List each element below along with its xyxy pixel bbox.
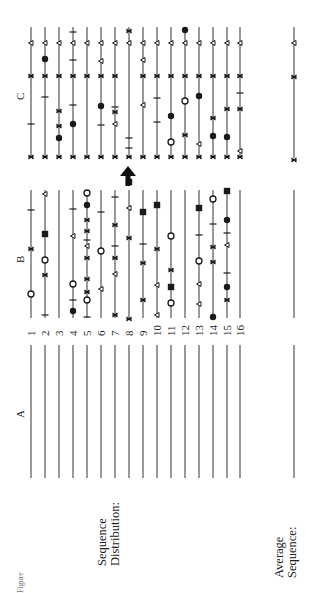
filled-square-marker: [140, 209, 146, 215]
row-label-11: 11: [165, 325, 178, 336]
open-triangle-marker: [197, 282, 202, 287]
open-triangle-marker: [197, 302, 202, 307]
filled-square-marker: [224, 188, 230, 194]
average-sequence-line-2: Sequence:: [286, 527, 299, 578]
open-triangle-marker: [29, 41, 34, 46]
filled-circle-marker: [210, 314, 216, 320]
open-triangle-marker: [99, 59, 104, 64]
open-triangle-marker: [57, 41, 62, 46]
filled-circle-marker: [42, 56, 48, 62]
filled-square-marker: [154, 202, 160, 208]
open-circle-marker: [84, 190, 90, 196]
sequence-distribution-label: Sequence Distribution:: [96, 502, 121, 566]
sequence-distribution-line-1: Sequence: [96, 502, 109, 566]
row-label-9: 9: [137, 331, 150, 337]
open-circle-marker: [210, 196, 216, 202]
filled-square-marker: [42, 231, 48, 237]
sequence-lines: [31, 27, 294, 478]
filled-circle-marker: [224, 284, 230, 290]
row-label-12: 12: [179, 325, 192, 336]
open-triangle-marker: [113, 272, 118, 277]
row-label-14: 14: [207, 325, 220, 336]
open-triangle-marker: [127, 206, 132, 211]
open-triangle-marker: [71, 234, 76, 239]
filled-circle-marker: [56, 135, 62, 141]
filled-circle-marker: [70, 308, 76, 314]
open-circle-marker: [182, 98, 188, 104]
open-triangle-marker: [197, 142, 202, 147]
filled-square-marker: [196, 205, 202, 211]
open-triangle-marker: [43, 41, 48, 46]
open-triangle-marker: [141, 41, 146, 46]
row-label-5: 5: [81, 331, 94, 337]
open-triangle-marker: [85, 41, 90, 46]
open-circle-marker: [70, 281, 76, 287]
sequence-distribution-line-2: Distribution:: [109, 502, 122, 566]
open-triangle-marker: [85, 244, 90, 249]
filled-circle-marker: [70, 121, 76, 127]
open-triangle-marker: [141, 58, 146, 63]
row-label-15: 15: [221, 325, 234, 336]
open-triangle-marker: [113, 122, 118, 127]
open-circle-marker: [84, 297, 90, 303]
row-label-7: 7: [109, 331, 122, 337]
open-triangle-marker: [43, 192, 48, 197]
row-label-2: 2: [39, 331, 52, 337]
row-label-6: 6: [95, 331, 108, 337]
open-triangle-marker: [99, 287, 104, 292]
row-label-16: 16: [234, 325, 247, 336]
filled-circle-marker: [182, 27, 188, 33]
panel-label-c: C: [14, 93, 27, 100]
open-triangle-marker: [113, 41, 118, 46]
open-triangle-marker: [292, 41, 297, 46]
row-label-8: 8: [123, 331, 136, 337]
open-triangle-marker: [155, 283, 160, 288]
open-circle-marker: [98, 248, 104, 254]
open-triangle-marker: [225, 41, 230, 46]
open-triangle-marker: [183, 41, 188, 46]
filled-circle-marker: [168, 113, 174, 119]
filled-circle-marker: [224, 217, 230, 223]
panel-label-b: B: [14, 256, 27, 263]
row-label-13: 13: [193, 325, 206, 336]
panel-label-a: A: [14, 410, 27, 418]
sequence-markers: [28, 27, 298, 321]
filled-circle-marker: [210, 133, 216, 139]
open-triangle-marker: [71, 41, 76, 46]
open-circle-marker: [28, 291, 34, 297]
open-triangle-marker: [155, 41, 160, 46]
open-circle-marker: [168, 233, 174, 239]
average-sequence-line-1: Average: [273, 527, 286, 578]
open-triangle-marker: [197, 41, 202, 46]
open-circle-marker: [42, 257, 48, 263]
open-triangle-marker: [169, 41, 174, 46]
open-triangle-marker: [141, 103, 146, 108]
filled-circle-marker: [196, 93, 202, 99]
row-label-10: 10: [151, 325, 164, 336]
open-triangle-marker: [99, 41, 104, 46]
open-circle-marker: [196, 258, 202, 264]
filled-circle-marker: [84, 202, 90, 208]
open-triangle-marker: [238, 149, 243, 154]
open-circle-marker: [168, 139, 174, 145]
sequence-distribution-figure: [0, 0, 319, 593]
open-triangle-marker: [155, 313, 160, 318]
row-label-4: 4: [67, 331, 80, 337]
open-triangle-marker: [225, 243, 230, 248]
open-triangle-marker: [238, 41, 243, 46]
arrow-up-icon: [120, 166, 136, 186]
open-triangle-marker: [127, 41, 132, 46]
figure-caption: Figure: [14, 572, 27, 593]
open-circle-marker: [168, 300, 174, 306]
filled-square-marker: [168, 284, 174, 290]
filled-circle-marker: [98, 103, 104, 109]
cross-marker: [291, 158, 297, 162]
average-sequence-label: Average Sequence:: [273, 527, 298, 578]
filled-circle-marker: [224, 134, 230, 140]
open-triangle-marker: [211, 41, 216, 46]
row-label-3: 3: [53, 331, 66, 337]
row-label-1: 1: [25, 331, 38, 337]
